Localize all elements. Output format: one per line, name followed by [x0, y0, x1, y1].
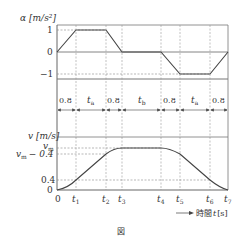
motion-profile-diagram: α[m/s²] 1 0 −1 0.8 ta 0.8 tb 0.8 ta 0: [0, 0, 243, 237]
accel-ytick-1: 1: [47, 25, 53, 35]
interval-4: 0.8: [163, 96, 176, 105]
interval-3: tb: [138, 95, 146, 106]
accel-ytick-0: 0: [47, 47, 53, 57]
svg-text:t6: t6: [206, 194, 214, 205]
velocity-ylabel: v[m/s]: [28, 131, 60, 141]
velocity-ytick-04: 0.4: [41, 175, 56, 185]
svg-text:時間t[s]: 時間t[s]: [196, 209, 228, 218]
velocity-ytick-0: 0: [47, 185, 53, 195]
svg-text:t2: t2: [102, 194, 110, 205]
time-guides: [76, 25, 210, 190]
time-axis-ticks: 0 t1 t2 t3 t4 t5 t6 t7: [55, 194, 232, 205]
accel-ylabel: α[m/s²]: [20, 13, 56, 23]
interval-1: ta: [87, 95, 95, 106]
svg-text:t5: t5: [176, 194, 184, 205]
velocity-ytick-vm-minus: vm− 0.4: [16, 149, 54, 160]
interval-0: 0.8: [59, 96, 72, 105]
svg-text:t7: t7: [224, 194, 232, 205]
svg-text:0: 0: [55, 194, 61, 204]
time-axis-label: 時間t[s]: [176, 209, 228, 218]
svg-text:t1: t1: [72, 194, 79, 205]
interval-dimensions: 0.8 ta 0.8 tb 0.8 ta 0.8: [58, 95, 227, 111]
figure-caption: 図: [117, 227, 125, 236]
interval-2: 0.8: [107, 96, 120, 105]
interval-5: ta: [191, 95, 199, 106]
interval-6: 0.8: [212, 96, 225, 105]
svg-text:t4: t4: [157, 194, 165, 205]
svg-text:t3: t3: [118, 194, 126, 205]
accel-ytick-neg1: −1: [40, 69, 53, 79]
